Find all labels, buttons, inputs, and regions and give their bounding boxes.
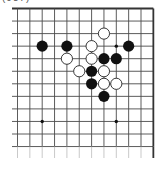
black-stone — [111, 53, 122, 64]
white-stone — [86, 41, 97, 52]
white-stone — [98, 66, 109, 77]
black-stone — [61, 41, 72, 52]
star-point-icon — [115, 44, 118, 47]
black-stone — [86, 78, 97, 89]
white-stone — [111, 78, 122, 89]
white-stone — [74, 66, 85, 77]
black-stone — [123, 41, 134, 52]
white-stone — [98, 78, 109, 89]
go-board — [0, 0, 162, 171]
white-stone — [98, 28, 109, 39]
black-stone — [86, 66, 97, 77]
black-stone — [98, 91, 109, 102]
board-grid — [12, 9, 153, 159]
black-stone — [98, 53, 109, 64]
white-stone — [61, 53, 72, 64]
stones — [37, 28, 135, 102]
star-point-icon — [115, 120, 118, 123]
black-stone — [37, 41, 48, 52]
star-point-icon — [41, 120, 44, 123]
white-stone — [86, 53, 97, 64]
